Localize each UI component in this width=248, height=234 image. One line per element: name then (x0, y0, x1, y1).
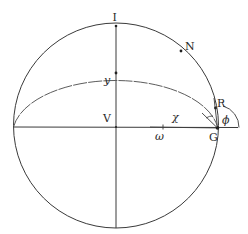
point-y (115, 72, 118, 75)
geometry-diagram: I N y V χ ω R G ϕ (0, 0, 248, 234)
label-chi: χ (171, 111, 180, 124)
point-V (115, 126, 117, 128)
tangent-angle-arc (206, 116, 213, 118)
point-G (216, 126, 220, 130)
label-R: R (217, 97, 226, 110)
diagram-canvas: I N y V χ ω R G ϕ (0, 0, 248, 234)
point-N (180, 50, 183, 53)
label-V: V (102, 112, 112, 125)
label-N: N (185, 40, 195, 53)
label-I: I (113, 11, 117, 24)
label-y: y (103, 74, 111, 87)
label-phi: ϕ (222, 114, 230, 127)
label-omega: ω (155, 130, 164, 143)
point-I (115, 25, 118, 28)
label-G: G (209, 131, 218, 144)
